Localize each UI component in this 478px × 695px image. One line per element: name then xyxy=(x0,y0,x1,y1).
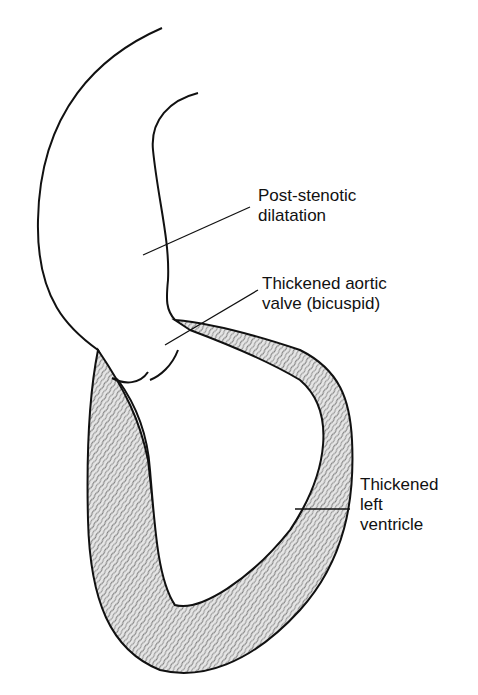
label-thickened-aortic-valve: Thickened aortic valve (bicuspid) xyxy=(262,274,387,314)
label-line: Post-stenotic xyxy=(258,186,356,206)
heart-illustration xyxy=(0,0,478,695)
aorta-outer-wall xyxy=(38,28,162,380)
label-thickened-left-ventricle: Thickened left ventricle xyxy=(360,475,438,535)
label-post-stenotic-dilatation: Post-stenotic dilatation xyxy=(258,186,356,226)
label-line: Thickened aortic xyxy=(262,274,387,294)
heart-diagram: Post-stenotic dilatation Thickened aorti… xyxy=(0,0,478,695)
leader-post-stenotic xyxy=(143,207,250,255)
label-line: left xyxy=(360,495,438,515)
label-line: dilatation xyxy=(258,206,356,226)
label-line: valve (bicuspid) xyxy=(262,294,387,314)
aorta-inner-wall xyxy=(153,93,198,320)
label-line: ventricle xyxy=(360,515,438,535)
label-line: Thickened xyxy=(360,475,438,495)
